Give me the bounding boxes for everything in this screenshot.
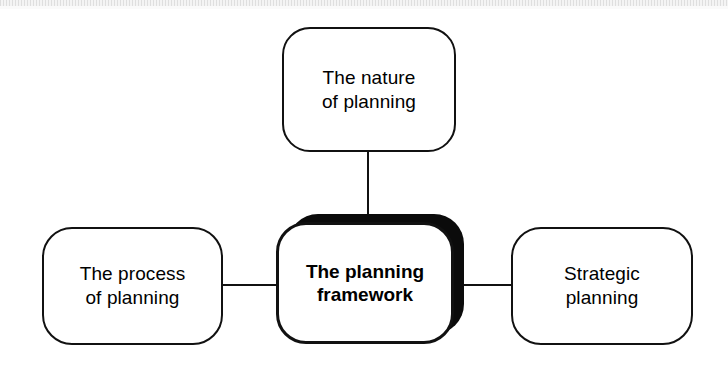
connector-framework-to-strategic xyxy=(462,284,513,286)
node-label-process: The process of planning xyxy=(74,262,192,310)
node-the-nature-of-planning[interactable]: The nature of planning xyxy=(282,27,456,152)
node-label-framework: The planning framework xyxy=(302,260,428,306)
center-node-group: The planning framework xyxy=(276,214,466,346)
node-the-process-of-planning[interactable]: The process of planning xyxy=(42,227,223,345)
node-strategic-planning[interactable]: Strategic planning xyxy=(511,227,693,345)
connector-framework-to-nature xyxy=(367,150,369,216)
node-the-planning-framework[interactable]: The planning framework xyxy=(276,222,454,344)
node-label-strategic: Strategic planning xyxy=(558,262,646,310)
node-label-nature: The nature of planning xyxy=(316,66,422,114)
scan-artifact-band-secondary xyxy=(0,6,728,9)
diagram-canvas: The nature of planning The process of pl… xyxy=(0,0,728,368)
connector-process-to-framework xyxy=(221,284,278,286)
